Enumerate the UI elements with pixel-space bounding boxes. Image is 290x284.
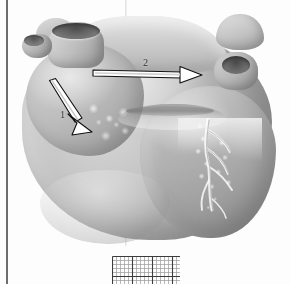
- heart-illustration: [0, 0, 290, 260]
- annotation-arrow-2: [92, 64, 206, 90]
- vena-cava-lumen: [24, 35, 44, 46]
- sulcus-vessel: [126, 106, 214, 116]
- scale-graticule: [112, 256, 180, 284]
- arrow-2-label: 2: [143, 58, 148, 68]
- arrow-1-label: 1: [60, 110, 65, 120]
- coronary-artery-tree: [178, 118, 262, 222]
- aorta-lumen: [52, 23, 100, 39]
- right-auricle: [216, 14, 264, 50]
- pulmonary-vein-lumen: [222, 56, 250, 74]
- heart-figure: 1 2: [0, 0, 290, 284]
